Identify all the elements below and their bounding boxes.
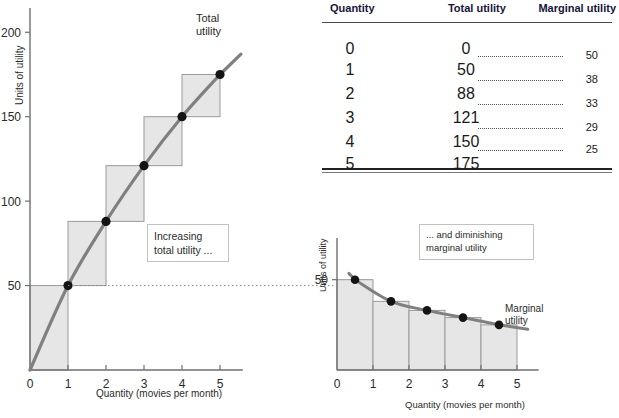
diminishing-marginal-utility-callout: ... and diminishing marginal utility [419,224,534,260]
marginal-x-tick-label: 1 [370,377,377,391]
column-header-total-utility: Total utility [423,2,530,14]
marginal-leader-dots [478,149,563,151]
marginal-utility-bar [481,325,517,370]
marginal-x-tick-label: 5 [514,377,521,391]
cell-total-utility: 121 [443,109,489,127]
total-utility-data-point [101,217,110,226]
marginal-utility-bar [337,280,373,370]
cell-quantity: 2 [330,85,370,103]
total-utility-chart: 50100150200012345 [0,0,300,400]
marginal-x-tick-label: 2 [406,377,413,391]
total-xlabel: Quantity (movies per month) [96,388,222,399]
marginal-x-tick-label: 3 [442,377,449,391]
total-utility-data-point [139,161,148,170]
column-header-marginal-utility: Marginal utility [530,2,616,14]
cell-quantity: 1 [330,61,370,79]
marginal-utility-data-point [495,321,504,330]
cell-total-utility: 50 [443,61,489,79]
marginal-utility-data-point [387,297,396,306]
total-ylabel: Units of utility [14,46,25,105]
cell-quantity: 3 [330,109,370,127]
total-y-tick-label: 150 [1,110,21,124]
marginal-leader-dots [478,79,563,81]
cell-total-utility: 88 [443,85,489,103]
marginal-utility-data-point [351,275,360,284]
marginal-leader-dots [478,55,563,57]
marginal-x-tick-label: 0 [334,377,341,391]
marginal-utility-data-point [459,313,468,322]
marginal-xlabel: Quantity (movies per month) [405,399,525,410]
marginal-leader-dots [478,127,563,129]
total-y-tick-label: 100 [1,195,21,209]
marginal-utility-bar [445,318,481,370]
total-utility-data-point [63,281,72,290]
marginal-x-tick-label: 4 [478,377,485,391]
cell-quantity: 5 [330,155,370,173]
total-utility-curve-label: Total utility [196,12,221,38]
cell-marginal-utility: 29 [568,121,598,133]
table-top-rule [322,22,612,23]
cell-quantity: 0 [330,40,370,58]
total-x-tick-label: 0 [27,377,34,391]
marginal-utility-bar [409,310,445,370]
marginal-leader-dots [478,103,563,105]
marginal-utility-bar [373,301,409,370]
total-x-tick-label: 1 [65,377,72,391]
utility-table: Quantity Total utility Marginal utility [322,2,616,14]
column-header-quantity: Quantity [322,2,423,14]
marginal-ylabel: Units of utility [318,238,328,292]
cell-total-utility: 175 [443,155,489,173]
cell-quantity: 4 [330,133,370,151]
cell-marginal-utility: 33 [568,97,598,109]
total-utility-data-point [215,70,224,79]
table-header-row: Quantity Total utility Marginal utility [322,2,616,14]
total-y-tick-label: 50 [8,279,22,293]
total-utility-data-point [177,112,186,121]
cell-marginal-utility: 50 [568,49,598,61]
total-y-tick-label: 200 [1,26,21,40]
utility-figure: 50100150200012345 Units of utility Quant… [0,0,619,418]
cell-marginal-utility: 38 [568,73,598,85]
marginal-utility-curve-label: Marginal utility [505,303,543,327]
marginal-utility-data-point [423,306,432,315]
increasing-total-utility-callout: Increasing total utility ... [147,224,229,262]
cell-marginal-utility: 25 [568,143,598,155]
